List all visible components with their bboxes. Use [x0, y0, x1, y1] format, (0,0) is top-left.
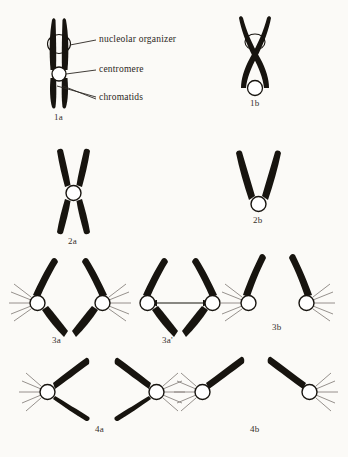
centromere-circle	[205, 296, 220, 311]
leader-line-centromere	[66, 70, 96, 74]
label-chromatids: chromatids	[99, 92, 143, 102]
chromatid-arm	[289, 254, 312, 297]
panel-3a-prime	[140, 258, 220, 337]
caption-1a: 1a	[54, 112, 63, 122]
chromatid-arm	[82, 258, 107, 297]
centromere-circle	[66, 186, 81, 201]
chromosome-figure	[0, 0, 348, 457]
caption-1b: 1b	[250, 98, 259, 108]
chromatid-arm	[206, 357, 244, 389]
chromosome-diagram-page: nucleolar organizer centromere chromatid…	[0, 0, 348, 457]
chromatid-arm	[143, 258, 168, 297]
caption-2a: 2a	[68, 236, 77, 246]
caption-2b: 2b	[253, 215, 262, 225]
label-centromere: centromere	[99, 64, 144, 74]
chromatid-arm	[236, 151, 255, 200]
caption-3a: 3a	[52, 335, 61, 345]
chromatid-arm	[33, 258, 58, 297]
chromatid-arm	[152, 306, 178, 337]
centromere-circle	[140, 296, 155, 311]
panel-1a	[48, 18, 97, 108]
centromere-circle	[241, 296, 256, 311]
caption-4a: 4a	[95, 424, 104, 434]
panel-4a	[19, 358, 185, 421]
centromere-circle	[30, 296, 45, 311]
panel-2a	[57, 149, 90, 234]
centromere-circle	[251, 197, 266, 212]
centromere-circle	[302, 385, 317, 400]
chromatid-arm	[72, 306, 98, 337]
centromere-circle	[40, 385, 55, 400]
chromatid-arm	[77, 149, 91, 187]
chromatid-arm	[57, 149, 71, 187]
spindle-fibers	[174, 373, 196, 411]
chromatid-arm	[268, 357, 306, 389]
chromatid-arm	[53, 396, 90, 421]
centromere-circle	[195, 385, 210, 400]
chromatid-arm	[62, 18, 69, 70]
chromatid-arm	[62, 78, 68, 109]
chromatid-arm	[114, 396, 151, 421]
panel-3b	[220, 254, 335, 321]
centromere-circle	[52, 67, 66, 81]
chromatid-arm	[53, 358, 89, 389]
spindle-fibers	[109, 284, 131, 321]
spindle-fibers	[19, 373, 41, 411]
caption-4b: 4b	[250, 424, 259, 434]
chromatid-arm	[42, 306, 68, 337]
centromere-circle	[248, 81, 263, 96]
chromatid-arm	[50, 18, 57, 70]
chromatid-arm	[262, 151, 281, 200]
spindle-fibers	[220, 284, 242, 321]
chromatid-arm	[50, 78, 56, 109]
spindle-fibers	[316, 373, 338, 411]
label-nucleolar-organizer: nucleolar organizer	[99, 34, 176, 44]
centromere-circle	[299, 296, 314, 311]
spindle-fibers	[9, 284, 31, 321]
spindle-fibers	[313, 284, 335, 321]
centromere-circle	[149, 385, 164, 400]
panel-2b	[236, 151, 281, 212]
leader-line-nucleolar-organizer	[70, 40, 96, 45]
centromere-circle	[95, 296, 110, 311]
chromatid-arm	[192, 258, 217, 297]
chromatid-arm	[57, 199, 71, 234]
chromatid-arm	[243, 254, 266, 297]
chromatid-arm	[115, 358, 151, 389]
panel-3a	[9, 258, 131, 337]
panel-4b	[174, 357, 338, 411]
caption-3a-prime: 3a'	[162, 335, 173, 345]
caption-3b: 3b	[272, 322, 281, 332]
chromatid-arm	[182, 306, 208, 337]
panel-1b	[239, 16, 271, 95]
chromatid-arm	[77, 199, 91, 234]
